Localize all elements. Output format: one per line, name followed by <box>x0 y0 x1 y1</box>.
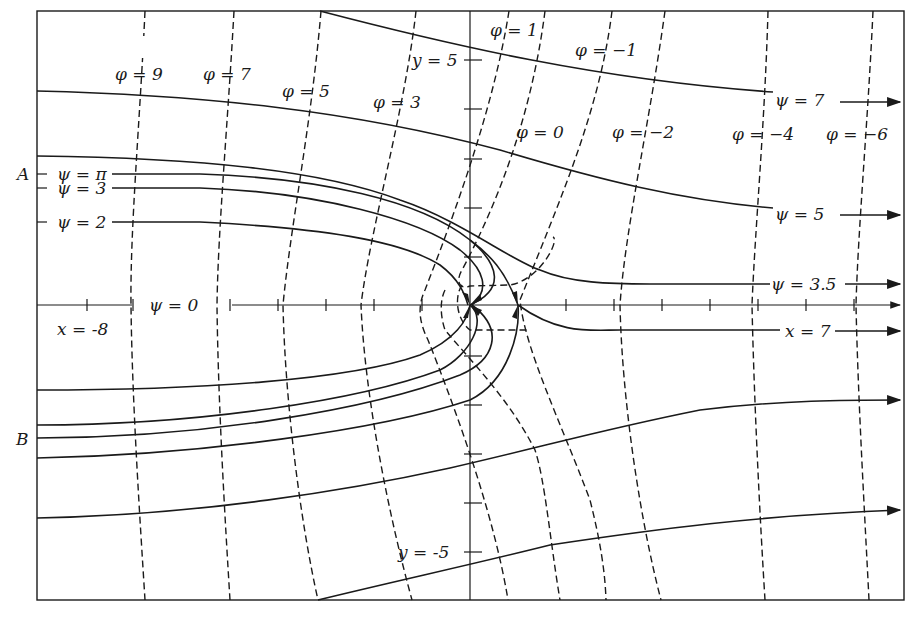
label-phi-minus-2: φ = −2 <box>612 122 674 142</box>
label-phi-0: φ = 0 <box>516 122 564 142</box>
label-phi-minus-4: φ = −4 <box>732 124 794 144</box>
label-x-minus-8: x = -8 <box>57 319 108 339</box>
label-y-minus-5: y = -5 <box>397 542 449 562</box>
label-phi-minus-6: φ = −6 <box>826 124 888 144</box>
label-x-7: x = 7 <box>785 321 831 341</box>
label-psi-7: ψ = 7 <box>775 90 824 110</box>
point-label-B: B <box>15 429 29 449</box>
label-psi-3-5: ψ = 3.5 <box>771 274 836 294</box>
label-phi-9: φ = 9 <box>115 64 163 84</box>
label-psi-3: ψ = 3 <box>57 178 106 198</box>
label-psi-2: ψ = 2 <box>57 212 106 232</box>
label-phi-5: φ = 5 <box>282 81 330 101</box>
label-y-5: y = 5 <box>411 50 457 70</box>
label-psi-0: ψ = 0 <box>149 295 198 315</box>
label-phi-1: φ = 1 <box>490 20 538 40</box>
label-phi-minus-1: φ = −1 <box>575 40 637 60</box>
point-label-A: A <box>15 164 29 184</box>
label-phi-7: φ = 7 <box>203 64 251 84</box>
flow-net-diagram: φ = 9 φ = 7 φ = 5 φ = 3 φ = 1 φ = 0 φ = … <box>0 0 924 624</box>
label-phi-3: φ = 3 <box>373 92 421 112</box>
labels: φ = 9 φ = 7 φ = 5 φ = 3 φ = 1 φ = 0 φ = … <box>15 20 888 562</box>
label-psi-5: ψ = 5 <box>775 204 824 224</box>
